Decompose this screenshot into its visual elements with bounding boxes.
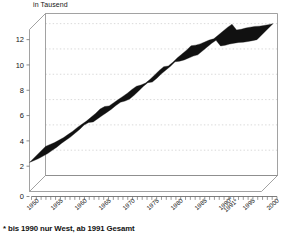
y-axis-ticks bbox=[27, 40, 30, 197]
chart-container: in Tausend 024681012 1950195519601965197… bbox=[0, 0, 291, 237]
y-axis-label: 2 bbox=[8, 162, 24, 171]
chart-footnote: * bis 1990 nur West, ab 1991 Gesamt bbox=[3, 224, 135, 233]
y-axis-title: in Tausend bbox=[33, 1, 68, 8]
y-axis-label: 12 bbox=[8, 35, 24, 44]
y-axis-label: 4 bbox=[8, 137, 24, 146]
y-axis-label: 6 bbox=[8, 111, 24, 120]
y-axis-label: 0 bbox=[8, 192, 24, 201]
y-axis-label: 10 bbox=[8, 61, 24, 70]
y-axis-label: 8 bbox=[8, 86, 24, 95]
